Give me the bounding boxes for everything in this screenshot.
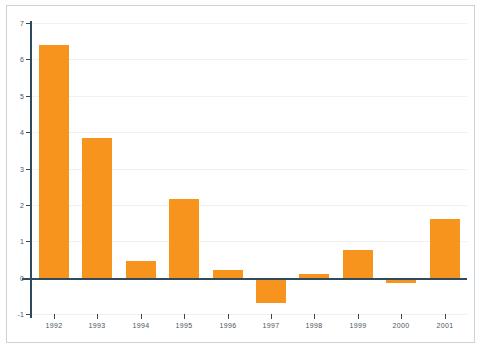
y-tick-2 bbox=[26, 205, 32, 206]
x-tick-label-2001: 2001 bbox=[425, 322, 465, 329]
y-axis-line bbox=[30, 21, 32, 318]
x-tick-1997 bbox=[271, 314, 272, 319]
x-axis-tick-labels: 1992 1993 1994 1995 1996 1997 1998 1999 … bbox=[30, 322, 467, 338]
x-tick-label-1997: 1997 bbox=[251, 322, 291, 329]
bar-1994 bbox=[126, 261, 156, 277]
y-tick-label-4: 4 bbox=[4, 129, 24, 136]
x-tick-2000 bbox=[401, 314, 402, 319]
x-tick-1993 bbox=[97, 314, 98, 319]
y-tick-3 bbox=[26, 169, 32, 170]
y-tick-label-minus-1: -1 bbox=[4, 311, 24, 318]
x-tick-2001 bbox=[445, 314, 446, 319]
x-axis-ticks bbox=[30, 314, 467, 322]
gridline-4 bbox=[30, 132, 467, 133]
x-tick-label-1993: 1993 bbox=[77, 322, 117, 329]
y-tick-label-6: 6 bbox=[4, 56, 24, 63]
y-tick-6 bbox=[26, 59, 32, 60]
bar-1993 bbox=[82, 138, 112, 278]
bar-1996 bbox=[213, 270, 243, 277]
y-tick-1 bbox=[26, 241, 32, 242]
bar-1995 bbox=[169, 199, 199, 277]
y-tick-5 bbox=[26, 96, 32, 97]
x-tick-label-1999: 1999 bbox=[338, 322, 378, 329]
gridline-6 bbox=[30, 59, 467, 60]
y-tick-0 bbox=[26, 278, 32, 279]
x-tick-1995 bbox=[184, 314, 185, 319]
x-tick-1994 bbox=[141, 314, 142, 319]
x-tick-label-1994: 1994 bbox=[121, 322, 161, 329]
zero-baseline bbox=[22, 278, 467, 280]
gridline-7 bbox=[30, 23, 467, 24]
x-tick-label-1992: 1992 bbox=[34, 322, 74, 329]
y-tick-label-2: 2 bbox=[4, 201, 24, 208]
bar-1997 bbox=[256, 278, 286, 303]
y-tick-label-0: 0 bbox=[4, 274, 24, 281]
bar-chart-figure: 7 6 5 4 3 2 1 0 -1 1992 1993 1994 1995 1… bbox=[0, 0, 481, 349]
y-tick-label-7: 7 bbox=[4, 20, 24, 27]
bar-2001 bbox=[430, 219, 460, 277]
x-tick-label-1998: 1998 bbox=[294, 322, 334, 329]
gridline-5 bbox=[30, 96, 467, 97]
bar-1992 bbox=[39, 45, 69, 278]
x-tick-1999 bbox=[358, 314, 359, 319]
y-tick-label-1: 1 bbox=[4, 238, 24, 245]
x-tick-label-2000: 2000 bbox=[381, 322, 421, 329]
bar-1999 bbox=[343, 250, 373, 277]
y-tick-label-3: 3 bbox=[4, 165, 24, 172]
y-tick-4 bbox=[26, 132, 32, 133]
y-tick-label-5: 5 bbox=[4, 92, 24, 99]
plot-area bbox=[30, 23, 467, 314]
x-tick-1992 bbox=[54, 314, 55, 319]
x-tick-label-1996: 1996 bbox=[208, 322, 248, 329]
y-axis-tick-labels: 7 6 5 4 3 2 1 0 -1 bbox=[0, 0, 24, 349]
x-tick-label-1995: 1995 bbox=[164, 322, 204, 329]
x-tick-1998 bbox=[314, 314, 315, 319]
y-tick-7 bbox=[26, 23, 32, 24]
x-tick-1996 bbox=[228, 314, 229, 319]
